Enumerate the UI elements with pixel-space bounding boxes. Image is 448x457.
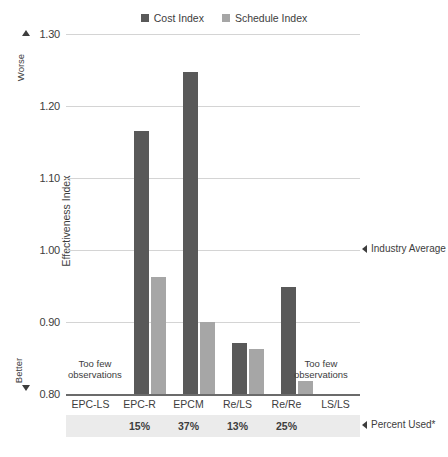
bar-cost-epcm — [183, 72, 198, 394]
y-axis-better-label: Better — [13, 341, 24, 401]
plot-area: Too few observations Too few observation… — [66, 34, 360, 394]
percent-used-label: Percent Used* — [371, 419, 435, 430]
legend-entry-schedule-index: Schedule Index — [222, 12, 307, 24]
y-tick-1-30: 1.30 — [39, 28, 60, 40]
y-tick-1-00: 1.00 — [39, 244, 60, 256]
legend-label-cost-index: Cost Index — [154, 12, 204, 24]
up-arrow-icon — [22, 30, 30, 36]
y-tick-0-80: 0.80 — [39, 388, 60, 400]
percent-re-re: 25% — [262, 420, 311, 432]
x-label-ls-ls: LS/LS — [311, 398, 360, 414]
x-axis-labels: EPC-LS EPC-R EPCM Re/LS Re/Re LS/LS — [66, 398, 360, 414]
x-label-epc-r: EPC-R — [115, 398, 164, 414]
x-label-re-ls: Re/LS — [213, 398, 262, 414]
note-line-2: observations — [294, 369, 348, 380]
y-axis: 1.30 1.20 1.10 1.00 0.90 0.80 — [0, 0, 66, 457]
x-label-epc-ls: EPC-LS — [66, 398, 115, 414]
note-line-1: Too few — [68, 358, 122, 369]
square-swatch-icon — [222, 14, 230, 22]
note-too-few-observations-left: Too few observations — [68, 358, 122, 380]
x-label-re-re: Re/Re — [262, 398, 311, 414]
down-arrow-icon — [22, 385, 30, 391]
y-tick-1-20: 1.20 — [39, 100, 60, 112]
bar-cost-re-ls — [232, 343, 247, 394]
percent-epcm: 37% — [164, 420, 213, 432]
y-axis-worse-label: Worse — [15, 38, 26, 98]
square-swatch-icon — [141, 14, 149, 22]
percent-epc-r: 15% — [115, 420, 164, 432]
left-triangle-icon — [362, 245, 367, 253]
y-tick-0-90: 0.90 — [39, 316, 60, 328]
y-tick-1-10: 1.10 — [39, 172, 60, 184]
chart-legend: Cost Index Schedule Index — [0, 12, 448, 24]
bar-group-epcm — [164, 34, 213, 394]
bar-cost-epc-r — [134, 131, 149, 394]
bar-group-re-ls — [213, 34, 262, 394]
bar-group-epc-r — [115, 34, 164, 394]
industry-average-callout: Industry Average — [362, 243, 446, 254]
x-label-epcm: EPCM — [164, 398, 213, 414]
legend-label-schedule-index: Schedule Index — [235, 12, 307, 24]
gridline-0-80-baseline — [66, 394, 360, 396]
note-line-1: Too few — [294, 358, 348, 369]
bar-series-container — [66, 34, 360, 394]
left-triangle-icon — [362, 421, 367, 429]
percent-used-band: 15% 37% 13% 25% — [66, 415, 360, 437]
percent-used-callout: Percent Used* — [362, 419, 435, 430]
industry-average-label: Industry Average — [371, 243, 446, 254]
bar-group-ls-ls — [311, 34, 360, 394]
note-line-2: observations — [68, 369, 122, 380]
percent-re-ls: 13% — [213, 420, 262, 432]
bar-group-epc-ls — [66, 34, 115, 394]
legend-entry-cost-index: Cost Index — [141, 12, 204, 24]
note-too-few-observations-right: Too few observations — [294, 358, 348, 380]
bar-group-re-re — [262, 34, 311, 394]
